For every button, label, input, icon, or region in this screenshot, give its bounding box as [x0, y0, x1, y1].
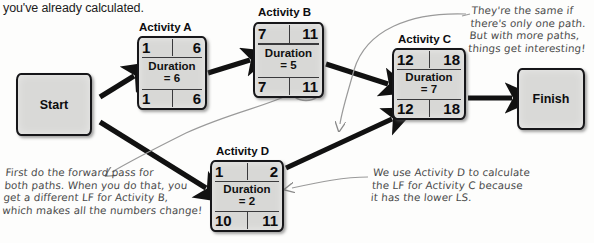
node-c-duration-label: Duration: [394, 71, 464, 83]
node-d-duration: Duration = 2: [212, 183, 282, 207]
arrow-b-to-c: [326, 64, 388, 84]
node-finish[interactable]: Finish: [517, 68, 585, 130]
node-b-title: Activity B: [258, 6, 311, 18]
annotation-same-if-one-path: They're the same if there's only one pat…: [468, 4, 590, 54]
node-c-early-start: 12: [397, 52, 414, 67]
node-c-duration-value: = 7: [394, 84, 464, 96]
node-activity-b[interactable]: 7 11 Duration = 5 7 11: [253, 22, 324, 98]
diagram-canvas: you've already calculated.: [0, 0, 594, 243]
node-c-early-finish: 18: [443, 52, 460, 67]
node-a-early-finish: 6: [193, 40, 201, 55]
node-d-late-start: 10: [215, 213, 232, 228]
annotation-lower-ls: We use Activity D to calculate the LF fo…: [370, 166, 530, 204]
node-b-duration-label: Duration: [255, 47, 322, 59]
node-start-label: Start: [40, 98, 68, 112]
arrow-start-to-a: [100, 76, 134, 97]
node-c-duration: Duration = 7: [394, 71, 464, 95]
node-activity-a[interactable]: 1 6 Duration = 6 1 6: [137, 36, 207, 110]
node-b-duration: Duration = 5: [255, 47, 322, 71]
node-b-late-start: 7: [258, 79, 266, 94]
node-start[interactable]: Start: [16, 73, 92, 136]
node-d-late-finish: 11: [262, 213, 278, 228]
arrow-d-to-c: [286, 119, 392, 168]
node-a-duration-value: = 6: [139, 73, 205, 85]
node-c-late-start: 12: [397, 101, 414, 116]
node-a-duration-label: Duration: [139, 60, 205, 72]
node-a-early-start: 1: [142, 40, 150, 55]
node-finish-label: Finish: [533, 92, 570, 106]
leader-lower-ls-note: [292, 177, 368, 188]
node-a-title: Activity A: [139, 21, 192, 33]
node-d-title: Activity D: [216, 145, 269, 157]
node-b-early-start: 7: [258, 26, 266, 41]
node-d-duration-value: = 2: [212, 196, 282, 208]
node-a-duration: Duration = 6: [139, 60, 205, 84]
node-b-early-finish: 11: [302, 26, 318, 41]
node-d-early-finish: 2: [270, 164, 278, 179]
node-activity-c[interactable]: 12 18 Duration = 7 12 18: [392, 48, 466, 120]
node-d-early-start: 1: [215, 164, 223, 179]
annotation-forward-pass: First do the forward pass for both paths…: [2, 166, 206, 216]
arrow-a-to-b: [208, 60, 250, 73]
node-b-duration-value: = 5: [255, 60, 322, 72]
node-activity-d[interactable]: 1 2 Duration = 2 10 11: [210, 160, 284, 232]
node-b-late-finish: 11: [302, 79, 318, 94]
node-a-late-start: 1: [142, 91, 150, 106]
node-a-late-finish: 6: [193, 91, 201, 106]
node-c-title: Activity C: [398, 33, 451, 45]
node-d-duration-label: Duration: [212, 183, 282, 195]
node-c-late-finish: 18: [443, 101, 460, 116]
